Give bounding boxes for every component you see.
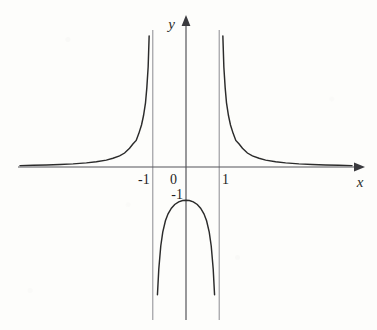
curve-left-branch <box>20 36 149 166</box>
y-axis-arrowhead <box>182 15 191 26</box>
y-axis-label: y <box>166 16 175 32</box>
x-axis-label: x <box>356 174 364 190</box>
function-plot: -1 0 1 -1 y x <box>0 0 377 330</box>
x-axis-arrowhead <box>354 163 365 172</box>
tick-label-group: -1 0 1 -1 <box>138 172 229 202</box>
curve-right-branch <box>223 36 352 166</box>
x-tick-label-one: 1 <box>222 172 229 187</box>
axis-name-group: y x <box>166 16 363 190</box>
graph-figure: -1 0 1 -1 y x <box>0 0 377 330</box>
x-tick-label-zero: 0 <box>170 172 177 187</box>
axes-group <box>18 15 365 320</box>
y-tick-label-neg-one: -1 <box>171 187 183 202</box>
x-tick-label-neg-one: -1 <box>138 172 150 187</box>
